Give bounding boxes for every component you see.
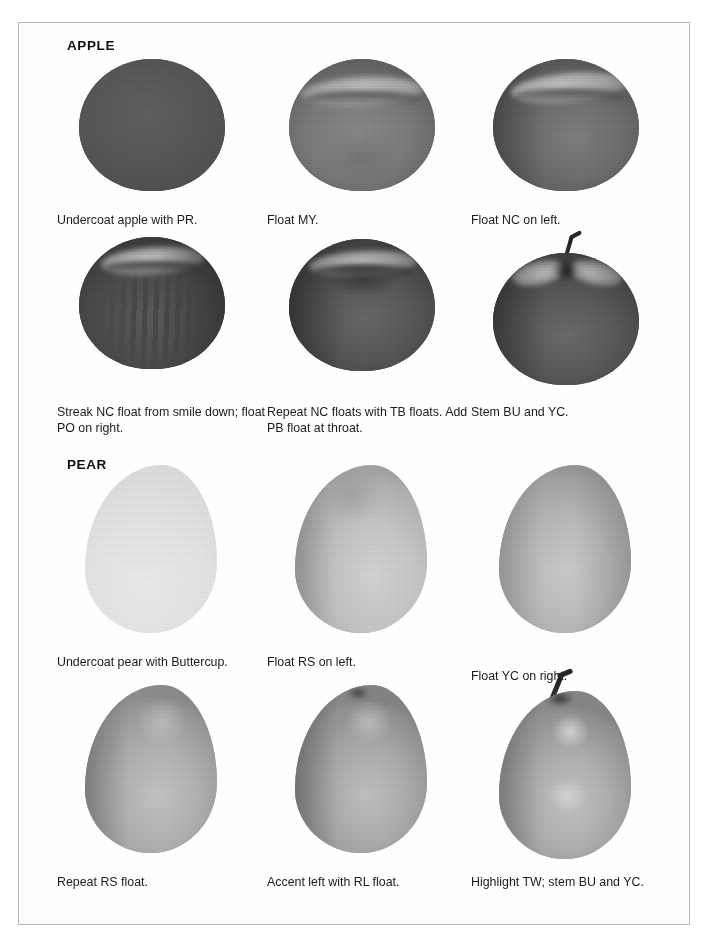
- illustration-apple-float-my: [267, 53, 477, 213]
- step-caption: Repeat RS float.: [57, 875, 267, 891]
- step-cell-apple-2: Float MY.: [267, 53, 477, 229]
- step-caption: Accent left with RL float.: [267, 875, 477, 891]
- step-cell-pear-5: Accent left with RL float.: [267, 675, 477, 891]
- step-cell-pear-6: Highlight TW; stem BU and YC.: [471, 675, 681, 891]
- step-cell-pear-1: Undercoat pear with Buttercup.: [57, 463, 267, 671]
- step-caption: Repeat NC floats with TB floats. Add PB …: [267, 405, 477, 437]
- step-caption: Undercoat pear with Buttercup.: [57, 655, 267, 671]
- step-caption: Highlight TW; stem BU and YC.: [471, 875, 681, 891]
- step-caption: Streak NC float from smile down; float P…: [57, 405, 267, 437]
- illustration-apple-float-nc-left: [471, 53, 681, 213]
- illustration-apple-stem: [471, 235, 681, 405]
- illustration-pear-undercoat: [57, 463, 267, 655]
- step-caption: Float NC on left.: [471, 213, 681, 229]
- illustration-pear-float-rs-left: [267, 463, 477, 655]
- step-cell-apple-1: Undercoat apple with PR.: [57, 53, 267, 229]
- step-cell-apple-4: Streak NC float from smile down; float P…: [57, 235, 267, 437]
- step-caption: Float RS on left.: [267, 655, 477, 671]
- illustration-pear-highlight-stem: [471, 675, 681, 875]
- step-caption: Stem BU and YC.: [471, 405, 681, 421]
- step-caption: Float MY.: [267, 213, 477, 229]
- step-cell-apple-5: Repeat NC floats with TB floats. Add PB …: [267, 235, 477, 437]
- section-title-apple: APPLE: [67, 38, 115, 53]
- page-frame: APPLE Undercoat apple with PR. Float MY.: [18, 22, 690, 925]
- illustration-apple-streak-nc: [57, 235, 267, 405]
- step-cell-apple-3: Float NC on left.: [471, 53, 681, 229]
- illustration-pear-accent-rl: [267, 675, 477, 875]
- step-cell-pear-4: Repeat RS float.: [57, 675, 267, 891]
- step-cell-pear-3: Float YC on right.: [471, 463, 681, 685]
- illustration-pear-repeat-rs: [57, 675, 267, 875]
- step-caption: Undercoat apple with PR.: [57, 213, 267, 229]
- illustration-apple-undercoat: [57, 53, 267, 213]
- step-cell-pear-2: Float RS on left.: [267, 463, 477, 671]
- illustration-apple-repeat-nc-tb: [267, 235, 477, 405]
- step-cell-apple-6: Stem BU and YC.: [471, 235, 681, 421]
- illustration-pear-float-yc-right: [471, 463, 681, 655]
